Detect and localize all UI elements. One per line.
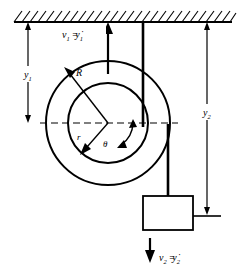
hanging-block [143, 196, 193, 230]
pulley-diagram: y1 y2 R r θ [0, 0, 242, 274]
diagram-background [0, 0, 242, 274]
theta-label: θ [103, 139, 108, 149]
diagram-canvas: y1 y2 R r θ [0, 0, 242, 274]
r-label: r [77, 132, 81, 142]
R-label: R [75, 67, 82, 78]
